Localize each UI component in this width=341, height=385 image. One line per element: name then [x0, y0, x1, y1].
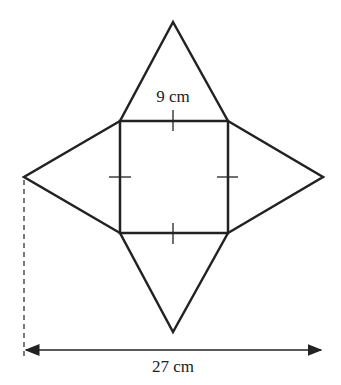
right-triangle — [228, 121, 323, 233]
bottom-triangle — [120, 233, 228, 332]
side-length-label: 9 cm — [156, 87, 190, 106]
total-width-label: 27 cm — [152, 357, 194, 376]
square-base — [120, 121, 228, 233]
equal-side-tick-marks — [109, 110, 238, 244]
left-triangle — [24, 121, 120, 233]
top-triangle — [120, 22, 228, 121]
pyramid-net-diagram: 9 cm 27 cm — [0, 0, 341, 385]
